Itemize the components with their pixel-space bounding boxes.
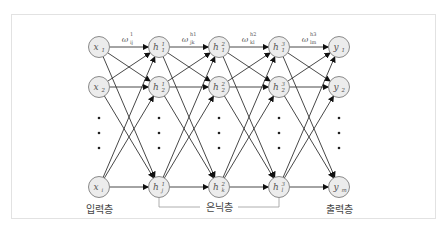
svg-text:2: 2 — [161, 87, 166, 93]
svg-text:1: 1 — [102, 47, 106, 53]
ellipsis-dots — [98, 117, 341, 150]
svg-text:y: y — [332, 82, 339, 92]
svg-text:x: x — [93, 82, 98, 92]
svg-text:1: 1 — [130, 31, 133, 37]
svg-text:x: x — [93, 182, 98, 192]
svg-text:h: h — [153, 42, 159, 52]
svg-text:ω: ω — [182, 35, 189, 44]
layer-labels: 입력층 은닉층 출력층 — [86, 198, 353, 215]
svg-text:2: 2 — [101, 87, 106, 93]
node-hidden1-1: h11 — [149, 37, 170, 58]
svg-text:1: 1 — [162, 181, 166, 187]
ellipsis-dot — [158, 132, 161, 135]
svg-text:i: i — [102, 187, 104, 193]
output-layer-label: 출력층 — [326, 204, 353, 215]
node-input-1: x1 — [89, 37, 110, 58]
node-output-2: y2 — [329, 77, 350, 98]
node-hidden2-3: hk2 — [209, 177, 230, 198]
node-input-3: xi — [89, 177, 110, 198]
svg-text:2: 2 — [221, 87, 226, 93]
weight-label-4: ωh3lm — [302, 31, 317, 45]
svg-text:h: h — [273, 182, 279, 192]
svg-text:x: x — [93, 42, 98, 52]
ellipsis-dot — [278, 147, 281, 150]
svg-text:kl: kl — [250, 39, 255, 45]
svg-text:2: 2 — [221, 81, 226, 87]
svg-text:2: 2 — [221, 41, 226, 47]
ellipsis-dot — [98, 117, 101, 120]
node-hidden3-2: h23 — [269, 77, 290, 98]
svg-text:2: 2 — [341, 87, 346, 93]
svg-text:1: 1 — [342, 47, 346, 53]
ellipsis-dot — [278, 132, 281, 135]
svg-text:y: y — [332, 42, 339, 52]
ellipsis-dot — [338, 117, 341, 120]
svg-text:l: l — [282, 187, 284, 193]
hidden-layer-label: 은닉층 — [206, 202, 233, 213]
svg-text:1: 1 — [162, 81, 166, 87]
input-layer-label: 입력층 — [86, 203, 113, 215]
ellipsis-dot — [158, 147, 161, 150]
svg-text:j: j — [161, 187, 164, 194]
node-output-1: y1 — [329, 37, 350, 58]
node-output-3: ym — [329, 177, 350, 198]
svg-text:ij: ij — [130, 39, 134, 46]
svg-text:1: 1 — [162, 41, 166, 47]
svg-text:3: 3 — [282, 41, 286, 47]
ellipsis-dot — [218, 117, 221, 120]
ellipsis-dot — [158, 117, 161, 120]
neural-network-diagram: ω1ijωh1jkωh2klωh3lm x1x2xih11h21hj1h12h2… — [0, 0, 446, 229]
svg-text:h: h — [213, 82, 219, 92]
ellipsis-dot — [98, 132, 101, 135]
weight-label-2: ωh1jk — [182, 31, 197, 46]
node-hidden2-1: h12 — [209, 37, 230, 58]
node-hidden1-2: h21 — [149, 77, 170, 98]
svg-text:1: 1 — [282, 47, 286, 53]
svg-text:2: 2 — [221, 181, 226, 187]
svg-text:ω: ω — [242, 35, 249, 44]
weight-label-3: ωh2kl — [242, 31, 257, 45]
ellipsis-dot — [338, 132, 341, 135]
svg-text:ω: ω — [302, 35, 309, 44]
svg-text:h: h — [153, 82, 159, 92]
node-hidden3-3: hl3 — [269, 177, 290, 198]
ellipsis-dot — [338, 147, 341, 150]
ellipsis-dot — [278, 117, 281, 120]
svg-text:h1: h1 — [190, 31, 196, 37]
svg-text:h3: h3 — [310, 31, 316, 37]
svg-text:h: h — [273, 82, 279, 92]
ellipsis-dot — [218, 147, 221, 150]
svg-text:h: h — [213, 42, 219, 52]
weight-label-1: ω1ij — [122, 31, 134, 46]
svg-text:h2: h2 — [250, 31, 256, 37]
svg-text:h: h — [273, 42, 279, 52]
svg-text:jk: jk — [189, 39, 196, 46]
ellipsis-dot — [218, 132, 221, 135]
svg-text:1: 1 — [222, 47, 226, 53]
svg-text:h: h — [213, 182, 219, 192]
node-hidden3-1: h13 — [269, 37, 290, 58]
svg-text:y: y — [332, 182, 339, 192]
svg-text:ω: ω — [122, 35, 129, 44]
node-hidden2-2: h22 — [209, 77, 230, 98]
svg-text:3: 3 — [282, 81, 286, 87]
svg-text:lm: lm — [310, 39, 317, 45]
node-hidden1-3: hj1 — [149, 177, 170, 198]
svg-text:h: h — [153, 182, 159, 192]
svg-text:2: 2 — [281, 87, 286, 93]
svg-text:3: 3 — [282, 181, 286, 187]
svg-text:1: 1 — [162, 47, 166, 53]
svg-text:m: m — [342, 187, 347, 193]
ellipsis-dot — [98, 147, 101, 150]
node-input-2: x2 — [89, 77, 110, 98]
